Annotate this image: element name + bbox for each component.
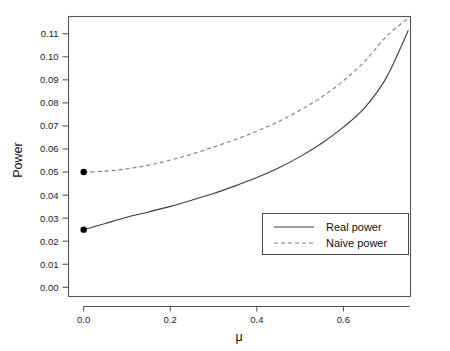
y-axis-title: Power [11, 142, 25, 177]
series-marker [80, 169, 86, 175]
power-curve-chart: 0.000.010.020.030.040.050.060.070.080.09… [0, 0, 450, 351]
y-tick-label: 0.10 [40, 51, 59, 62]
y-tick-label: 0.07 [40, 120, 59, 131]
legend-label-naive-power: Naive power [326, 237, 387, 249]
chart-legend: Real power Naive power [263, 214, 409, 255]
y-tick-label: 0.01 [40, 259, 59, 270]
legend-label-real-power: Real power [326, 221, 382, 233]
y-tick-label: 0.09 [40, 74, 59, 85]
x-tick-label: 0.6 [337, 314, 350, 325]
x-tick-label: 0.0 [77, 314, 90, 325]
series-marker [80, 226, 86, 232]
x-tick-label: 0.4 [250, 314, 263, 325]
y-tick-label: 0.03 [40, 213, 59, 224]
y-tick-label: 0.05 [40, 166, 59, 177]
y-tick-label: 0.04 [40, 190, 59, 201]
y-tick-label: 0.08 [40, 97, 59, 108]
y-tick-label: 0.11 [41, 28, 59, 39]
x-axis-title: μ [235, 330, 242, 344]
chart-background [0, 0, 450, 351]
chart-canvas: 0.000.010.020.030.040.050.060.070.080.09… [0, 0, 450, 351]
x-tick-label: 0.2 [164, 314, 177, 325]
y-tick-label: 0.00 [40, 282, 59, 293]
y-tick-label: 0.02 [40, 236, 59, 247]
y-tick-label: 0.06 [40, 143, 59, 154]
